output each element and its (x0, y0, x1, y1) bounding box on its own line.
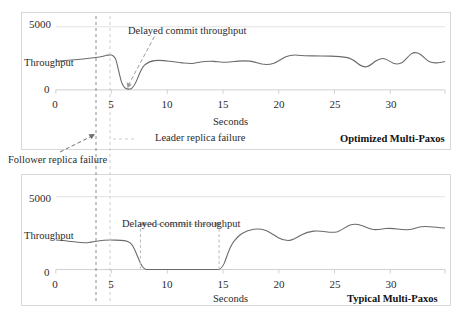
ytick-5000-bottom: 5000 (29, 193, 51, 204)
delayed-commit-label-bottom: Delayed commit throughput (122, 219, 240, 230)
xtick-10-bottom: 10 (162, 279, 173, 290)
xtick-25-bottom: 25 (330, 279, 341, 290)
delayed-commit-label-top: Delayed commit throughput (128, 26, 246, 37)
xtick-0-bottom: 0 (52, 279, 58, 290)
xtick-5-top: 5 (108, 99, 114, 110)
leader-failure-label: Leader replica failure (155, 133, 245, 144)
follower-failure-arrow-line (60, 136, 92, 152)
xlabel-top: Seconds (213, 117, 248, 128)
xtick-0-top: 0 (52, 99, 58, 110)
xtick-30-top: 30 (386, 99, 397, 110)
ytick-0-bottom: 0 (44, 267, 50, 278)
xtick-5-bottom: 5 (108, 279, 114, 290)
xtick-30-bottom: 30 (386, 279, 397, 290)
panel-title-optimized: Optimized Multi-Paxos (340, 134, 445, 145)
xlabel-bottom: Seconds (213, 294, 248, 305)
xtick-10-top: 10 (162, 99, 173, 110)
xtick-15-top: 15 (218, 99, 229, 110)
follower-failure-arrowhead (89, 134, 96, 139)
ytick-0-top: 0 (44, 84, 50, 95)
xtick-15-bottom: 15 (218, 279, 229, 290)
xtick-20-bottom: 20 (274, 279, 285, 290)
figure-container: 5000 0 Throughput 0 5 10 15 20 25 30 Sec… (0, 0, 466, 323)
ytick-5000-top: 5000 (29, 19, 51, 30)
ylabel-top: Throughput (24, 58, 74, 69)
panel-title-typical: Typical Multi-Paxos (347, 294, 438, 305)
xtick-25-top: 25 (330, 99, 341, 110)
ylabel-bottom: Throughput (24, 231, 74, 242)
xtick-20-top: 20 (274, 99, 285, 110)
follower-failure-label: Follower replica failure (8, 155, 107, 166)
